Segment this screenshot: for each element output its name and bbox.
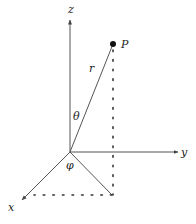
point-p-label: P: [120, 38, 129, 51]
radius-label: r: [89, 62, 95, 75]
spherical-coordinates-diagram: z y x P r θ φ: [0, 0, 196, 224]
z-axis-label: z: [67, 3, 74, 16]
radius-line: [70, 44, 113, 152]
theta-label: θ: [73, 110, 80, 123]
projection-line: [70, 152, 112, 195]
x-axis: [22, 152, 70, 200]
phi-label: φ: [66, 159, 74, 172]
x-axis-label: x: [8, 201, 15, 214]
point-p-dot: [110, 41, 116, 47]
y-axis-label: y: [180, 146, 188, 159]
